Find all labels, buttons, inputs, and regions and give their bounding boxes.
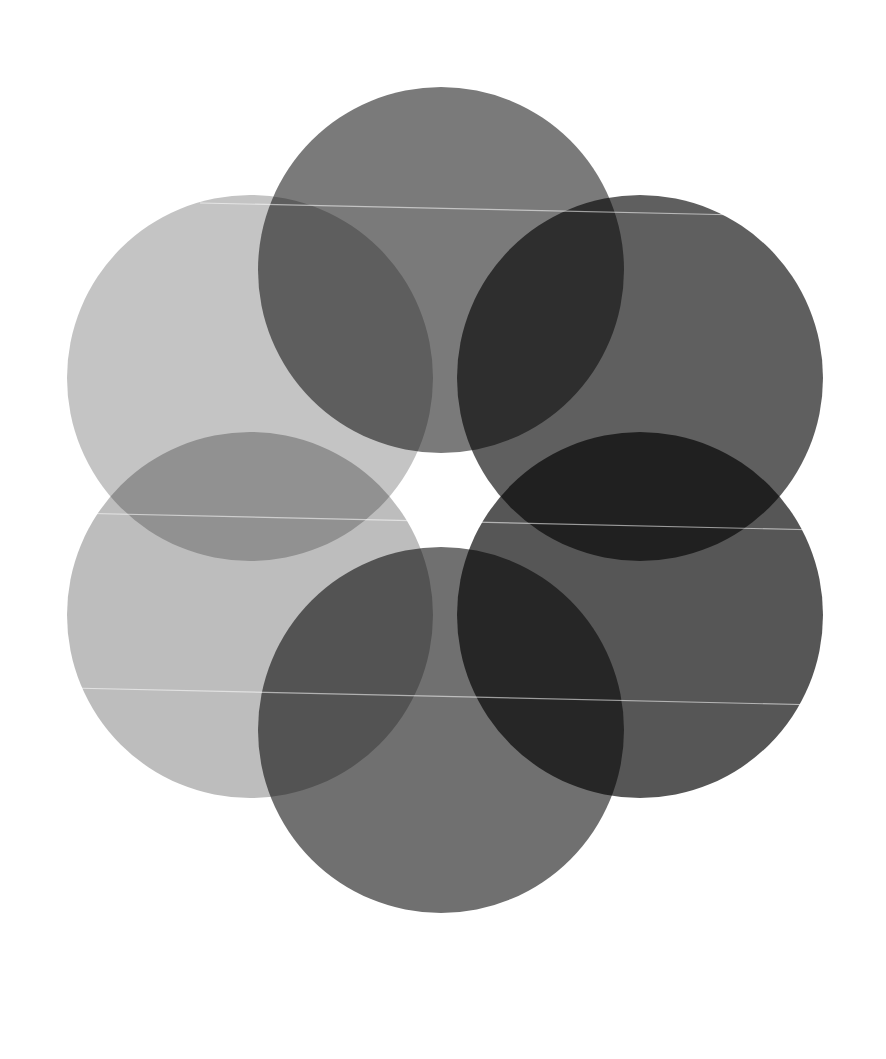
circles-rosette [0, 0, 886, 1059]
circle-group [67, 87, 823, 913]
circle-bottom [258, 547, 624, 913]
artwork-canvas: Six overlapping translucent gray circles… [0, 0, 886, 1059]
